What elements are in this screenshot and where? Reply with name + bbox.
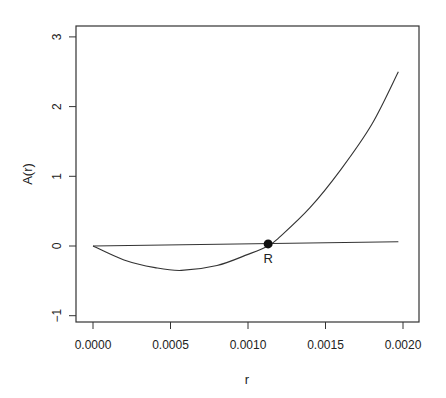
x-tick-label: 0.0010 <box>230 338 267 352</box>
y-tick-label: 3 <box>50 33 64 40</box>
x-tick-label: 0.0005 <box>152 338 189 352</box>
y-tick-label: 0 <box>50 242 64 249</box>
annotations: R <box>263 239 272 266</box>
y-axis-label: A(r) <box>20 163 35 185</box>
y-tick-label: 1 <box>50 173 64 180</box>
point-marker <box>264 239 273 248</box>
y-tick-label: 2 <box>50 103 64 110</box>
chart: −10123 0.00000.00050.00100.00150.0020 R … <box>0 0 446 398</box>
x-axis: 0.00000.00050.00100.00150.0020 <box>75 322 422 352</box>
plot-lines <box>93 72 398 271</box>
y-tick-label: −1 <box>50 309 64 323</box>
x-tick-label: 0.0000 <box>75 338 112 352</box>
x-axis-label: r <box>245 372 250 387</box>
x-tick-label: 0.0015 <box>307 338 344 352</box>
curve-line <box>93 72 398 271</box>
x-tick-label: 0.0020 <box>385 338 422 352</box>
plot-frame <box>76 26 419 322</box>
point-label: R <box>263 251 272 266</box>
reference-line <box>93 242 398 246</box>
y-axis: −10123 <box>50 33 76 322</box>
